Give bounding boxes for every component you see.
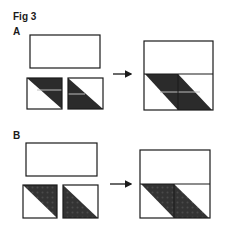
panel-a-top-rectangle: [30, 35, 100, 68]
panel-a-left-square: [27, 78, 62, 109]
panel-a: [27, 35, 213, 110]
panel-b-top-rectangle: [26, 143, 97, 176]
panel-a-result: [144, 41, 213, 110]
panel-a-right-square: [68, 78, 103, 109]
panel-b: [23, 143, 210, 218]
panel-b-left-square: [23, 185, 57, 218]
panel-b-result: [140, 150, 210, 218]
panel-b-right-square: [63, 185, 98, 218]
figure-diagram: [0, 0, 226, 230]
